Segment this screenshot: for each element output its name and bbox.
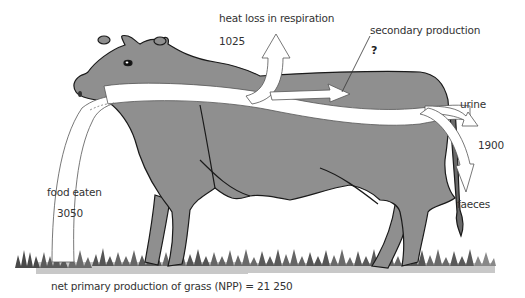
heat-loss-label: heat loss in respiration [219, 12, 334, 24]
heat-loss-value: 1025 [219, 35, 245, 47]
food-eaten-value: 3050 [57, 207, 83, 219]
faeces-label: faeces [457, 198, 490, 210]
secondary-production-label: secondary production [370, 24, 480, 36]
food-eaten-label: food eaten [47, 186, 102, 198]
grass-ground [15, 248, 496, 274]
npp-label: net primary production of grass (NPP) = … [51, 280, 293, 292]
energy-flow-diagram: heat loss in respiration 1025 secondary … [0, 0, 525, 298]
urine-faeces-value: 1900 [478, 139, 504, 151]
urine-label: urine [460, 98, 486, 110]
secondary-production-value: ? [371, 44, 377, 57]
